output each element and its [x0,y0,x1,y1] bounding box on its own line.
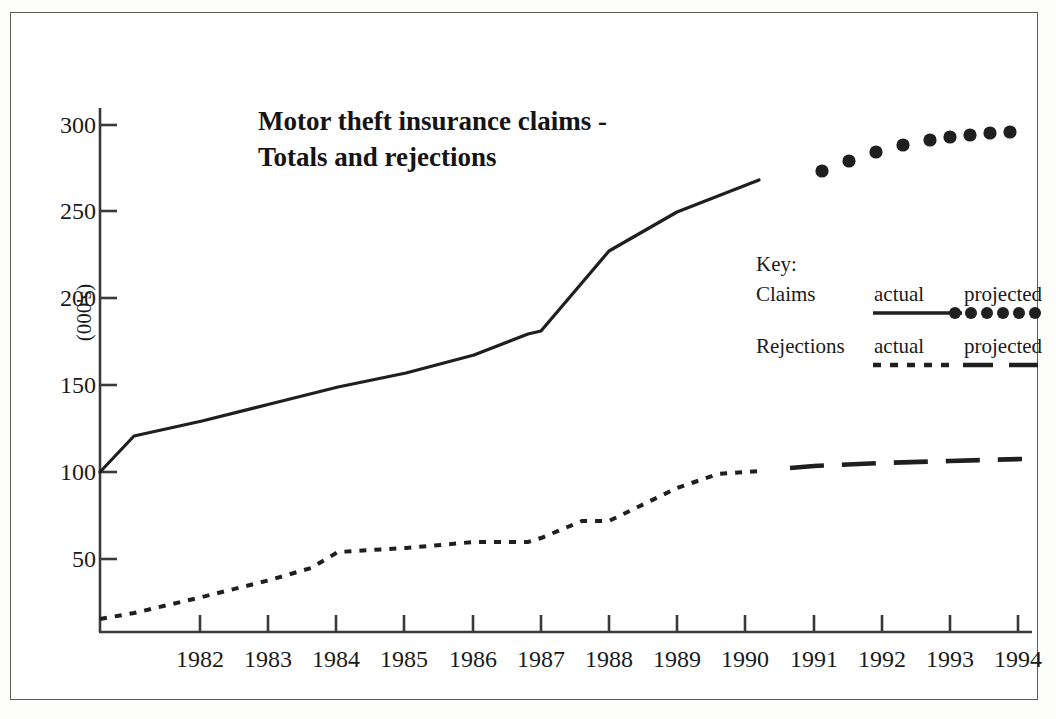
x-axis-ticks [200,615,1018,632]
key-claims-projected-sample [949,307,1041,319]
y-axis-ticks [100,125,117,559]
series-rejections-actual-line [100,471,759,619]
legend-claims-label: Claims [756,282,816,307]
legend-rejections-projected: projected [964,334,1042,359]
legend-claims-actual: actual [874,282,924,307]
legend-heading: Key: [756,252,797,277]
plot-area [0,0,1056,719]
legend-rejections-actual: actual [874,334,924,359]
legend-rejections-label: Rejections [756,334,845,359]
legend-claims-projected: projected [964,282,1042,307]
series-claims-actual-line [100,180,759,472]
series-rejections-projected-line [790,459,1022,468]
series-claims-projected-markers [815,125,1016,177]
chart-page: Motor theft insurance claims - Totals an… [0,0,1056,719]
